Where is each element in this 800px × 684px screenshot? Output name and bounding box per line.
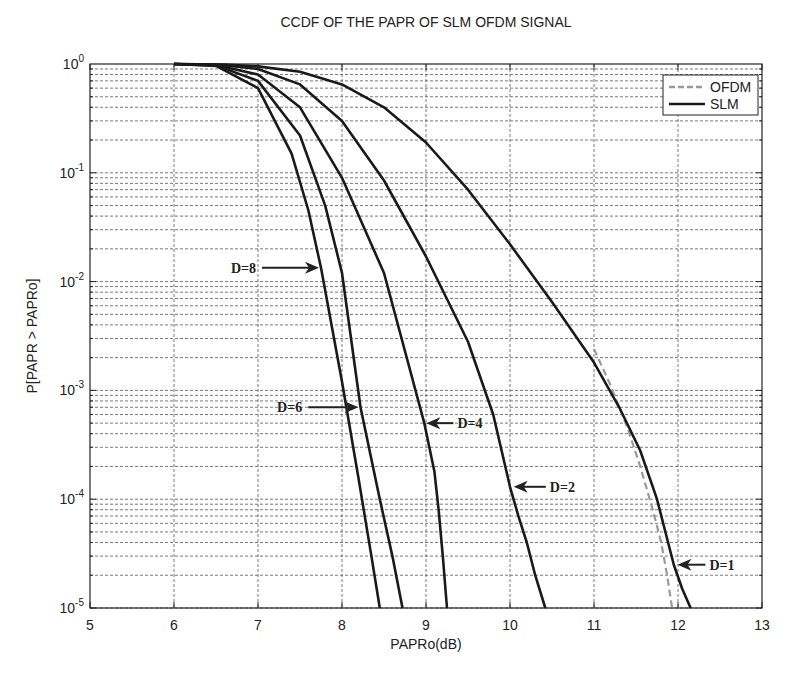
y-tick-label: 10-3 [60,379,85,398]
annotation-d-2: D=2 [514,480,575,495]
x-tick-label: 13 [754,617,770,633]
legend-label-ofdm: OFDM [710,79,751,95]
series-slm-d-4 [174,64,447,608]
x-tick-label: 12 [670,617,686,633]
legend: OFDMSLM [663,75,758,115]
annotation-label: D=4 [457,416,482,431]
plot-area: 567891011121310010-110-210-310-410-5D=8D… [0,0,800,684]
series-slm-d-8 [174,64,380,608]
annotation-label: D=2 [550,480,575,495]
annotation-d-1: D=1 [677,558,734,573]
x-tick-label: 10 [502,617,518,633]
annotation-d-8: D=8 [231,261,319,276]
annotation-label: D=8 [231,261,256,276]
y-tick-label: 10-2 [60,271,85,290]
chart: CCDF OF THE PAPR OF SLM OFDM SIGNAL P[PA… [0,0,800,684]
series-slm-d-2 [174,64,545,608]
annotation-label: D=6 [277,400,302,415]
legend-label-slm: SLM [710,96,739,112]
x-tick-label: 8 [338,617,346,633]
y-tick-label: 10-4 [60,488,85,507]
y-tick-label: 10-1 [60,162,85,181]
annotation-label: D=1 [709,558,734,573]
annotation-d-4: D=4 [426,416,482,431]
series-ofdm [594,349,672,608]
y-tick-label: 10-5 [60,597,85,616]
x-tick-label: 7 [254,617,262,633]
grid [90,64,762,608]
x-tick-label: 6 [170,617,178,633]
x-tick-label: 9 [422,617,430,633]
series-slm-d-1 [174,64,691,608]
y-tick-label: 100 [63,53,85,72]
x-tick-label: 5 [86,617,94,633]
x-tick-label: 11 [587,617,602,633]
